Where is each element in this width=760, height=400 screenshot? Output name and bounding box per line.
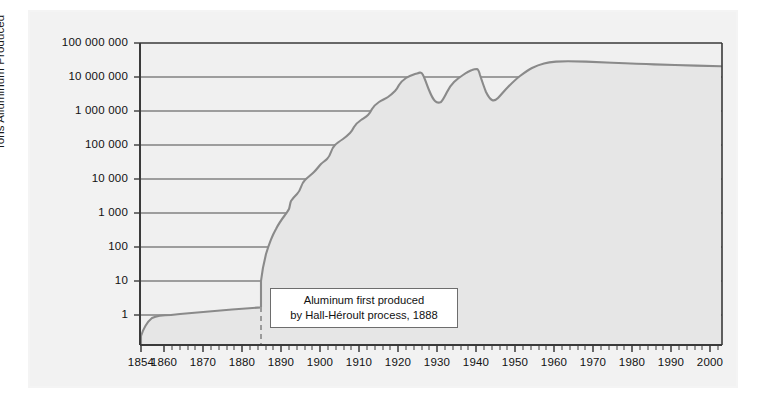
x-tick-label-1890: 1890	[261, 356, 301, 368]
x-tick-label-1920: 1920	[378, 356, 418, 368]
x-tick-label-1940: 1940	[456, 356, 496, 368]
x-tick-label-1980: 1980	[612, 356, 652, 368]
x-tick-label-1960: 1960	[534, 356, 574, 368]
y-tick-label-100: 100	[108, 240, 128, 252]
annotation-line-1: Aluminum first produced	[304, 293, 425, 308]
x-tick-label-1900: 1900	[300, 356, 340, 368]
x-tick-label-1970: 1970	[573, 356, 613, 368]
y-tick-label-100000000: 100 000 000	[62, 36, 128, 48]
annotation-line-2: by Hall-Héroult process, 1888	[290, 308, 437, 323]
x-tick-label-1990: 1990	[651, 356, 691, 368]
x-tick-label-1870: 1870	[183, 356, 223, 368]
x-tick-label-1950: 1950	[495, 356, 535, 368]
y-tick-label-1: 1	[121, 308, 128, 320]
chart-plot-svg	[0, 0, 760, 400]
y-tick-label-1000: 1 000	[98, 206, 128, 218]
y-tick-label-10000: 10 000	[92, 172, 128, 184]
y-tick-label-10000000: 10 000 000	[68, 70, 128, 82]
y-tick-label-10: 10	[115, 274, 128, 286]
chart-figure: Tons Alluminum Produced	[0, 0, 760, 400]
x-tick-label-1910: 1910	[339, 356, 379, 368]
y-tick-label-100000: 100 000	[85, 138, 128, 150]
x-tick-label-1880: 1880	[222, 356, 262, 368]
annotation-callout-box: Aluminum first produced by Hall-Héroult …	[270, 288, 458, 328]
y-tick-label-1000000: 1 000 000	[75, 104, 128, 116]
x-axis-major-ticks	[141, 345, 710, 352]
x-tick-label-1860: 1860	[144, 356, 184, 368]
x-tick-label-2000: 2000	[690, 356, 730, 368]
x-tick-label-1930: 1930	[417, 356, 457, 368]
